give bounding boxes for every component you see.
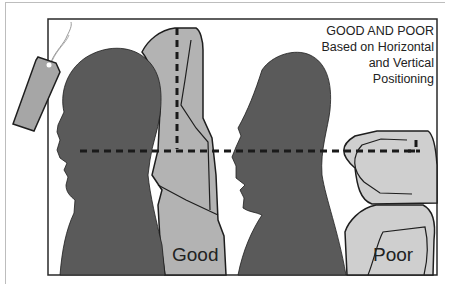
diagram-caption: GOOD AND POOR Based on Horizontal and Ve… xyxy=(321,23,434,87)
caption-line: GOOD AND POOR xyxy=(321,23,434,39)
caption-line: Based on Horizontal xyxy=(321,39,434,55)
caption-line: and Vertical xyxy=(321,55,434,71)
good-label: Good xyxy=(172,244,218,266)
poor-label: Poor xyxy=(373,244,413,266)
caption-line: Positioning xyxy=(321,71,434,87)
good-head-silhouette xyxy=(57,48,165,275)
